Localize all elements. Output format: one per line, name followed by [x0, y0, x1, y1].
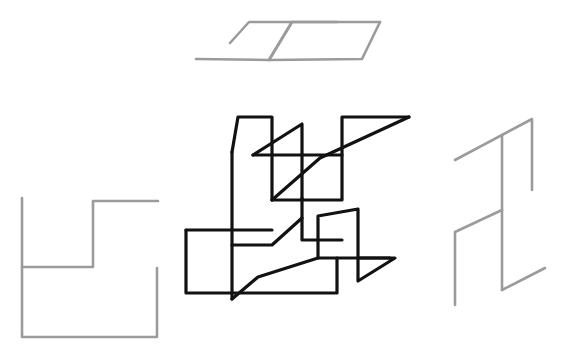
center-figure-path-7 — [302, 198, 342, 240]
line-drawing-svg — [0, 0, 565, 358]
center-figure-path-13 — [358, 258, 395, 281]
center-figure-path-4 — [253, 117, 409, 155]
top-figure-path-2 — [230, 22, 337, 43]
center-figure-path-12 — [318, 209, 358, 258]
right-gray-figure — [455, 119, 545, 305]
sketch-canvas — [0, 0, 565, 358]
right-figure-path-3 — [455, 210, 502, 305]
top-gray-figure — [196, 22, 380, 60]
right-figure-path-1 — [455, 119, 532, 190]
center-figure-path-6 — [272, 155, 342, 200]
left-gray-figure — [22, 198, 158, 337]
center-figure-path-3 — [253, 124, 302, 198]
right-figure-path-4 — [502, 268, 545, 290]
left-figure-path-2 — [22, 201, 158, 267]
center-black-figure — [186, 117, 409, 299]
center-figure-path-2 — [232, 117, 272, 200]
top-figure-path-3 — [269, 22, 380, 60]
top-figure-path-4 — [269, 22, 292, 60]
